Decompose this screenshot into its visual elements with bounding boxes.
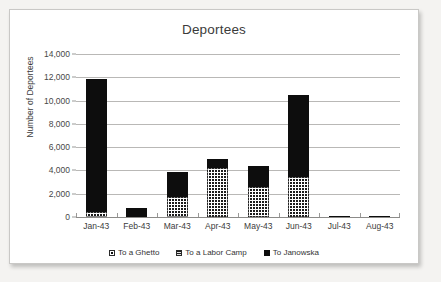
bar-stack[interactable] xyxy=(288,95,309,217)
y-axis-tick-label: 14,000 xyxy=(44,49,70,59)
bar-group[interactable] xyxy=(198,54,239,217)
x-axis-tick-label: Aug-43 xyxy=(360,221,401,231)
x-axis-tick-label: Apr-43 xyxy=(198,221,239,231)
x-axis-tick-mark xyxy=(76,213,77,217)
bar-group[interactable] xyxy=(238,54,279,217)
bar-segment-to-a-ghetto[interactable] xyxy=(167,197,188,217)
bar-group[interactable] xyxy=(319,54,360,217)
x-axis-tick-label: Feb-43 xyxy=(117,221,158,231)
bar-segment-to-janowska[interactable] xyxy=(126,208,147,217)
legend-label: To Janowska xyxy=(273,248,319,257)
bar-segment-to-a-ghetto[interactable] xyxy=(288,177,309,217)
legend-swatch-icon xyxy=(109,250,115,256)
bar-segment-to-janowska[interactable] xyxy=(207,159,228,168)
bar-group[interactable] xyxy=(76,54,117,217)
y-axis-tick-label: 8,000 xyxy=(49,119,70,129)
bar-stack[interactable] xyxy=(207,159,228,217)
chart-legend: To a GhettoTo a Labor CampTo Janowska xyxy=(10,248,418,257)
y-axis-tick-label: 6,000 xyxy=(49,142,70,152)
bar-stack[interactable] xyxy=(369,216,390,217)
y-axis-tick-label: 0 xyxy=(65,212,70,222)
y-axis-tick-label: 12,000 xyxy=(44,72,70,82)
bar-segment-to-janowska[interactable] xyxy=(329,216,350,217)
legend-label: To a Labor Camp xyxy=(185,248,246,257)
y-axis-tick-label: 2,000 xyxy=(49,189,70,199)
bar-stack[interactable] xyxy=(126,208,147,217)
legend-swatch-icon xyxy=(176,250,182,256)
bar-segment-to-janowska[interactable] xyxy=(288,95,309,177)
x-axis-tick-mark xyxy=(360,213,361,217)
legend-swatch-icon xyxy=(264,250,270,256)
bar-segment-to-a-ghetto[interactable] xyxy=(86,212,107,217)
bar-stack[interactable] xyxy=(167,172,188,217)
x-axis-tick-mark xyxy=(198,213,199,217)
chart-title: Deportees xyxy=(10,22,418,37)
bar-group[interactable] xyxy=(157,54,198,217)
legend-item[interactable]: To a Labor Camp xyxy=(176,248,246,257)
scanned-page: Deportees Number of Deportees 02,0004,00… xyxy=(0,0,441,282)
bar-group[interactable] xyxy=(360,54,401,217)
bar-segment-to-a-ghetto[interactable] xyxy=(248,187,269,217)
x-axis-tick-mark xyxy=(117,213,118,217)
x-axis-tick-mark xyxy=(157,213,158,217)
bar-segment-to-janowska[interactable] xyxy=(369,216,390,217)
legend-item[interactable]: To a Ghetto xyxy=(109,248,159,257)
x-axis-tick-mark xyxy=(319,213,320,217)
x-axis-tick-label: Jul-43 xyxy=(319,221,360,231)
x-axis-line xyxy=(76,217,400,218)
y-axis-tick-label: 10,000 xyxy=(44,96,70,106)
bars-layer xyxy=(76,54,400,217)
bar-group[interactable] xyxy=(279,54,320,217)
x-axis-tick-mark xyxy=(279,213,280,217)
legend-item[interactable]: To Janowska xyxy=(264,248,319,257)
x-axis-tick-label: May-43 xyxy=(238,221,279,231)
y-axis-tick-label: 4,000 xyxy=(49,165,70,175)
x-axis-tick-mark xyxy=(399,213,400,217)
x-axis-tick-label: Jun-43 xyxy=(279,221,320,231)
bar-segment-to-janowska[interactable] xyxy=(248,166,269,186)
bar-stack[interactable] xyxy=(248,166,269,217)
x-axis-labels: Jan-43Feb-43Mar-43Apr-43May-43Jun-43Jul-… xyxy=(76,221,400,231)
x-axis-tick-label: Mar-43 xyxy=(157,221,198,231)
x-axis-tick-label: Jan-43 xyxy=(76,221,117,231)
bar-stack[interactable] xyxy=(86,79,107,217)
legend-label: To a Ghetto xyxy=(118,248,159,257)
bar-group[interactable] xyxy=(117,54,158,217)
plot-area: 02,0004,0006,0008,00010,00012,00014,000 xyxy=(76,54,400,217)
y-axis-title: Number of Deportees xyxy=(25,32,35,162)
x-axis-tick-mark xyxy=(238,213,239,217)
bar-segment-to-janowska[interactable] xyxy=(86,79,107,212)
chart-container: Deportees Number of Deportees 02,0004,00… xyxy=(9,9,419,264)
bar-segment-to-a-ghetto[interactable] xyxy=(207,168,228,217)
bar-stack[interactable] xyxy=(329,216,350,217)
bar-segment-to-janowska[interactable] xyxy=(167,172,188,198)
